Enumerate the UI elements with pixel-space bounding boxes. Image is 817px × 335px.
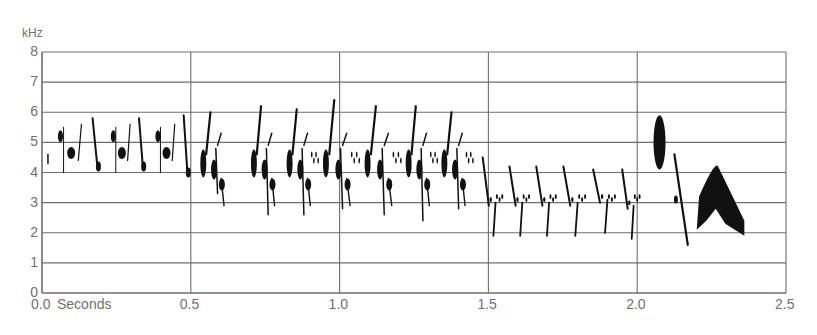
x-tick-label: 0.0 — [31, 297, 50, 311]
syllable-note-group — [155, 115, 190, 177]
x-tick-label: 0.5 — [180, 297, 199, 311]
syllable-arch — [697, 166, 745, 236]
syllable-downsweep-pair — [536, 166, 557, 235]
x-tick-label: 2.0 — [626, 297, 645, 311]
y-axis-unit-label: kHz — [22, 27, 43, 39]
x-tick-label: 2.5 — [775, 297, 794, 311]
syllable-note-group — [111, 118, 146, 172]
syllable-blob — [654, 115, 666, 169]
syllable-note-group — [58, 118, 101, 172]
y-tick-label: 7 — [22, 74, 38, 88]
y-tick-label: 1 — [22, 255, 38, 269]
y-tick-label: 4 — [22, 165, 38, 179]
syllable-chevron-group — [287, 109, 319, 214]
syllable-downsweep-pair — [509, 166, 530, 235]
y-tick-label: 5 — [22, 134, 38, 148]
y-tick-label: 8 — [22, 44, 38, 58]
x-tick-label: 1.0 — [329, 297, 348, 311]
syllable-chevron-group — [251, 106, 276, 214]
syllable-downsweep-pair — [563, 166, 586, 235]
chart-grid — [42, 52, 786, 293]
syllable-chevron-group — [406, 106, 438, 220]
syllable-chevron-group — [200, 112, 225, 205]
syllable-chevron-group — [441, 112, 473, 208]
y-tick-label: 6 — [22, 104, 38, 118]
syllable-chevron-group — [323, 100, 360, 208]
syllable-downsweep-pair — [483, 157, 504, 235]
y-tick-label: 2 — [22, 225, 38, 239]
x-tick-label: 1.5 — [477, 297, 496, 311]
syllable-downsweep-pair — [622, 169, 640, 238]
syllable-chevron-group — [365, 106, 402, 214]
spectrogram-chart — [0, 0, 817, 335]
syllable-downsweep-pair — [593, 169, 616, 232]
x-axis-unit-label: Seconds — [57, 297, 111, 311]
y-tick-label: 3 — [22, 195, 38, 209]
syllable-downsweep — [674, 154, 688, 244]
